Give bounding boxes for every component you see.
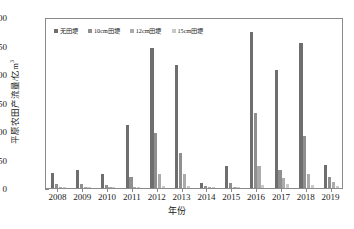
x-axis-title: 年份 (0, 204, 354, 217)
bar-2019-series-2 (328, 177, 331, 188)
bar-2013-series-2 (179, 153, 182, 188)
bar-2019-series-1 (324, 165, 327, 188)
bar-2014-series-1 (200, 183, 203, 188)
bar-2012-series-2 (154, 133, 157, 188)
bar-2013-series-3 (183, 174, 186, 188)
bar-2017-series-2 (278, 170, 281, 188)
legend-item-4[interactable]: 15cm田埂 (172, 26, 204, 35)
y-axis-title-text: 平原农田产流量/亿m (10, 63, 20, 144)
bar-2016-series-4 (261, 185, 264, 188)
bar-2018-series-2 (303, 136, 306, 188)
y-tick-mark (45, 189, 49, 190)
y-tick-label: 100 (0, 127, 7, 137)
bar-2012-series-3 (158, 174, 161, 188)
legend-label: 10cm田埂 (94, 26, 120, 35)
bar-2010-series-3 (108, 187, 111, 188)
bar-2017-series-3 (282, 178, 285, 188)
y-tick-label: 50 (0, 156, 7, 166)
bar-2012-series-4 (162, 186, 165, 188)
legend-item-1[interactable]: 无田埂 (54, 26, 78, 35)
bar-2011-series-1 (126, 125, 129, 188)
legend-swatch-icon (130, 29, 134, 33)
bar-2013-series-4 (187, 186, 190, 188)
bar-2009-series-1 (76, 170, 79, 188)
bar-2014-series-2 (204, 186, 207, 188)
y-tick-label: 0 (0, 184, 7, 194)
bar-2016-series-2 (254, 113, 257, 188)
bar-series-container (46, 19, 342, 188)
bar-2011-series-2 (129, 177, 132, 188)
bar-2014-series-3 (208, 187, 211, 188)
plot-area (45, 18, 343, 189)
bar-2015-series-4 (236, 187, 239, 188)
bar-2008-series-4 (63, 187, 66, 188)
legend-item-2[interactable]: 10cm田埂 (88, 26, 120, 35)
bar-2019-series-3 (332, 182, 335, 188)
bar-2018-series-3 (307, 174, 310, 188)
legend-label: 15cm田埂 (178, 26, 204, 35)
bar-2017-series-1 (275, 70, 278, 188)
bar-2017-series-4 (286, 184, 289, 188)
y-tick-label: 300 (0, 13, 7, 23)
chart-figure: 平原农田产流量/亿m3 050100150200250300 无田埂10cm田埂… (0, 0, 354, 229)
y-tick-label: 250 (0, 42, 7, 52)
y-axis-title: 平原农田产流量/亿m3 (8, 27, 20, 177)
bar-2018-series-4 (311, 185, 314, 188)
bar-2015-series-2 (229, 183, 232, 188)
legend-item-3[interactable]: 12cm田埂 (130, 26, 162, 35)
bar-2013-series-1 (175, 65, 178, 188)
bar-2019-series-4 (336, 186, 339, 188)
bar-2014-series-4 (212, 187, 215, 188)
y-tick-label: 200 (0, 70, 7, 80)
bar-2015-series-1 (225, 166, 228, 188)
bar-2008-series-1 (51, 173, 54, 188)
bar-2009-series-2 (80, 184, 83, 188)
bar-2011-series-3 (133, 187, 136, 188)
y-tick-label: 150 (0, 99, 7, 109)
bar-2010-series-4 (112, 187, 115, 188)
bar-2018-series-1 (299, 43, 302, 188)
legend-swatch-icon (54, 29, 58, 33)
chart-legend: 无田埂10cm田埂12cm田埂15cm田埂 (54, 26, 203, 35)
legend-swatch-icon (88, 29, 92, 33)
x-tick-label: 2019 (311, 192, 351, 202)
legend-swatch-icon (172, 29, 176, 33)
bar-2011-series-4 (137, 187, 140, 188)
bar-2008-series-3 (59, 187, 62, 188)
bar-2012-series-1 (150, 48, 153, 188)
bar-2010-series-2 (105, 185, 108, 188)
bar-2009-series-3 (84, 187, 87, 188)
legend-label: 12cm田埂 (136, 26, 162, 35)
bar-2010-series-1 (101, 174, 104, 188)
bar-2009-series-4 (87, 187, 90, 188)
bar-2015-series-3 (233, 187, 236, 188)
bar-2016-series-1 (250, 32, 253, 188)
bar-2008-series-2 (55, 184, 58, 188)
bar-2016-series-3 (257, 166, 260, 188)
legend-label: 无田埂 (60, 26, 78, 35)
y-axis-title-superscript: 3 (9, 60, 15, 63)
